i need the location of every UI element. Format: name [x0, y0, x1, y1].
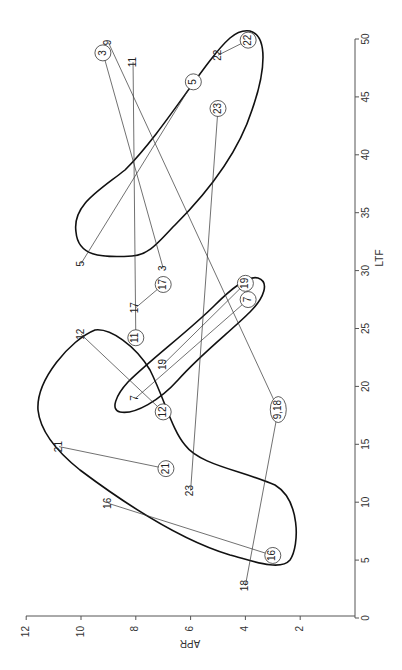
- apr-tick-label: 12: [20, 626, 31, 638]
- ltf-tick-label: 45: [360, 91, 371, 103]
- initial-point-label-11: 11: [127, 57, 138, 68]
- initial-point-label-5: 5: [75, 260, 86, 266]
- pair-links: [59, 40, 278, 585]
- initial-point-label-19: 19: [157, 358, 168, 370]
- ltf-tick-label: 40: [360, 149, 371, 161]
- initial-point-label-23: 23: [184, 485, 195, 497]
- initial-point-label-18: 18: [239, 580, 250, 592]
- ltf-ticks: 05101520253035404550: [355, 33, 371, 621]
- initial-point-label-17: 17: [129, 302, 140, 314]
- initial-point-label-9: 9: [102, 39, 113, 45]
- ltf-tick-label: 0: [360, 615, 371, 621]
- ltf-tick-label: 10: [360, 496, 371, 508]
- axes: 05101520253035404550 24681012 LTF APR: [20, 33, 385, 649]
- initial-point-label-7: 7: [129, 395, 140, 401]
- pair-link-11: [133, 62, 136, 338]
- pair-link-23: [191, 108, 218, 490]
- apr-tick-label: 4: [239, 626, 250, 632]
- pair-link-9: [108, 42, 278, 409]
- final-point-label-3: 3: [97, 50, 108, 56]
- final-point-label-22: 22: [242, 34, 253, 46]
- scatter-chart: 05101520253035404550 24681012 LTF APR 33…: [0, 0, 402, 670]
- ltf-tick-label: 15: [360, 438, 371, 450]
- ltf-tick-label: 35: [360, 207, 371, 219]
- final-point-label-7: 7: [242, 296, 253, 302]
- ltf-tick-label: 30: [360, 265, 371, 277]
- cluster-contours: [38, 31, 296, 565]
- final-point-label-16: 16: [266, 549, 277, 561]
- ltf-tick-label: 20: [360, 380, 371, 392]
- initial-point-label-22: 22: [212, 49, 223, 61]
- pair-link-16: [108, 503, 272, 555]
- ltf-tick-label: 50: [360, 33, 371, 45]
- initial-point-label-21: 21: [53, 441, 64, 453]
- final-point-label-11: 11: [129, 332, 140, 343]
- final-point-label-19: 19: [239, 277, 250, 289]
- apr-tick-label: 6: [184, 626, 195, 632]
- apr-axis-label: APR: [180, 638, 201, 649]
- apr-tick-label: 8: [129, 626, 140, 632]
- final-point-label-12: 12: [157, 406, 168, 418]
- apr-ticks: 24681012: [20, 616, 305, 637]
- final-point-label-9-18: 9,18: [272, 399, 283, 419]
- initial-point-label-16: 16: [102, 497, 113, 509]
- contour-upper-cluster: [76, 31, 263, 257]
- pair-link-5: [81, 82, 193, 264]
- final-point-label-23: 23: [212, 102, 223, 114]
- final-point-label-17: 17: [157, 278, 168, 290]
- apr-tick-label: 2: [294, 626, 305, 632]
- apr-tick-label: 10: [75, 626, 86, 638]
- pair-link-7: [136, 300, 248, 398]
- ltf-axis-label: LTF: [374, 249, 385, 266]
- final-point-label-21: 21: [160, 463, 171, 475]
- ltf-tick-label: 5: [360, 557, 371, 563]
- initial-point-label-3: 3: [157, 265, 168, 271]
- initial-point-label-12: 12: [75, 328, 86, 340]
- ltf-tick-label: 25: [360, 323, 371, 335]
- final-point-label-5: 5: [187, 79, 198, 85]
